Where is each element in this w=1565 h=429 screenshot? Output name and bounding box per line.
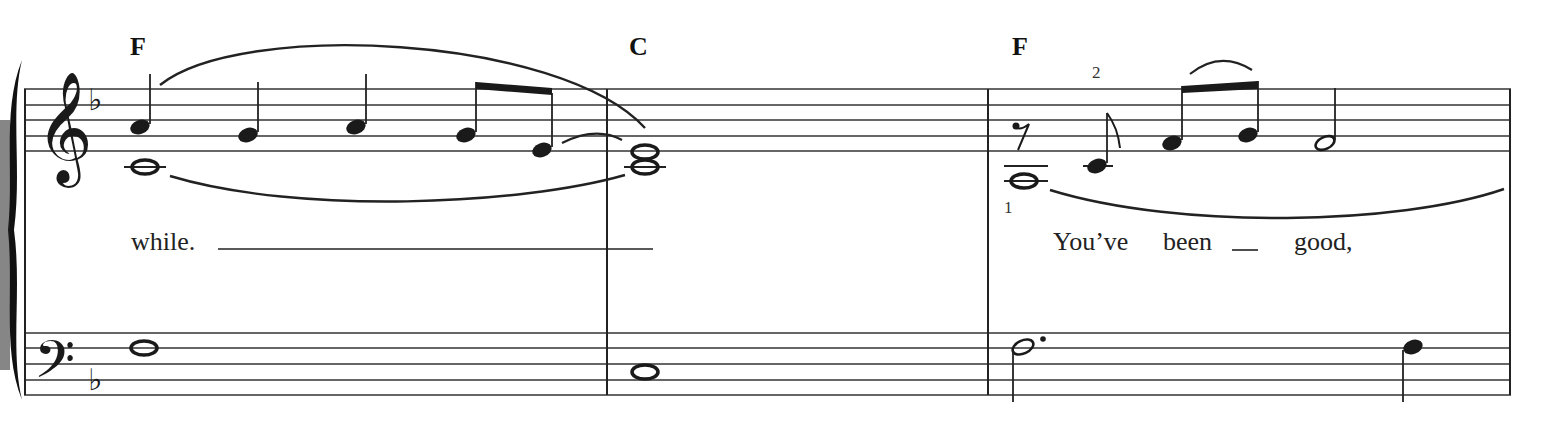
whole-note-head (632, 145, 658, 159)
fingering-2: 2 (1092, 63, 1101, 82)
note-head (530, 140, 554, 160)
lyric-word: good, (1294, 227, 1353, 256)
note-head (454, 125, 478, 145)
whole-note-head (632, 365, 658, 379)
measure-3-treble: 1 2 (1004, 61, 1504, 218)
brace-shadow (0, 120, 10, 370)
beam (1182, 81, 1258, 93)
dot (1040, 336, 1046, 342)
lyric-word: while. (131, 227, 195, 256)
note-head (236, 125, 260, 145)
note-head (1236, 125, 1260, 145)
chord-symbol-measure-2: C (629, 32, 648, 61)
grand-staff-brace (8, 60, 22, 400)
lyric-word: been (1163, 227, 1212, 256)
chord-symbol-measure-3: F (1012, 32, 1028, 61)
slur-short (1190, 61, 1252, 74)
bass-clef-icon: 𝄢 (34, 329, 75, 403)
bass-staff (24, 333, 1511, 395)
half-note-head (1010, 336, 1035, 357)
eighth-rest-icon (1016, 124, 1029, 150)
eighth-flag (1107, 113, 1120, 148)
measure-1-treble (124, 45, 645, 201)
measure-2-treble (624, 145, 666, 174)
note-head (1085, 156, 1109, 176)
key-signature-flat-bass: ♭ (88, 362, 102, 397)
chord-symbol-measure-1: F (130, 32, 146, 61)
lyric-word: You’ve (1053, 227, 1128, 256)
fingering-1: 1 (1004, 198, 1013, 217)
treble-clef-icon: 𝄞 (36, 71, 93, 188)
sheet-music-score: 𝄞 ♭ 𝄢 ♭ F C F while. (0, 0, 1565, 429)
phrase-slur-lower (1050, 189, 1504, 218)
note-head (1401, 337, 1425, 357)
bass-notes (131, 336, 1425, 402)
key-signature-flat-treble: ♭ (88, 82, 102, 117)
tie (562, 134, 622, 143)
beam (476, 82, 552, 95)
phrase-slur-upper (160, 45, 645, 128)
phrase-slur-lower (170, 175, 625, 202)
